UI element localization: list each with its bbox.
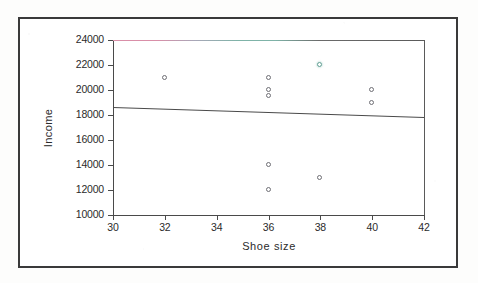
data-point [266, 75, 271, 80]
y-tick-label: 18000 [62, 109, 104, 120]
x-axis-title: Shoe size [113, 240, 425, 252]
y-tick-label: 24000 [62, 34, 104, 45]
x-tick-label: 32 [145, 221, 185, 233]
y-tick [108, 165, 113, 166]
scatter-plot-figure: 1000012000140001600018000200002200024000… [0, 0, 478, 283]
y-tick-label: 22000 [62, 59, 104, 70]
y-tick [108, 190, 113, 191]
x-tick [217, 215, 218, 220]
x-tick-label: 40 [352, 221, 392, 233]
y-axis-title: Income [42, 109, 54, 147]
x-tick-label: 30 [93, 221, 133, 233]
data-point [266, 93, 271, 98]
y-axis-line [113, 40, 114, 216]
data-point [317, 175, 322, 180]
data-point [266, 187, 271, 192]
y-tick-label: 16000 [62, 134, 104, 145]
x-tick-label: 34 [197, 221, 237, 233]
data-point [266, 162, 271, 167]
data-point [266, 87, 271, 92]
y-tick [108, 65, 113, 66]
data-point [162, 75, 167, 80]
y-tick-label: 12000 [62, 184, 104, 195]
y-tick [108, 90, 113, 91]
x-tick-label: 36 [249, 221, 289, 233]
y-tick-label: 20000 [62, 84, 104, 95]
y-tick [108, 115, 113, 116]
plot-right-border [424, 40, 425, 216]
data-point [369, 100, 374, 105]
y-tick [108, 40, 113, 41]
y-tick [108, 140, 113, 141]
x-tick-label: 38 [300, 221, 340, 233]
x-tick-label: 42 [404, 221, 444, 233]
x-tick [320, 215, 321, 220]
x-tick [113, 215, 114, 220]
x-tick [372, 215, 373, 220]
y-tick-label: 14000 [62, 159, 104, 170]
y-tick-label: 10000 [62, 209, 104, 220]
x-tick [165, 215, 166, 220]
plot-top-border [113, 40, 425, 41]
x-tick [424, 215, 425, 220]
x-tick [269, 215, 270, 220]
